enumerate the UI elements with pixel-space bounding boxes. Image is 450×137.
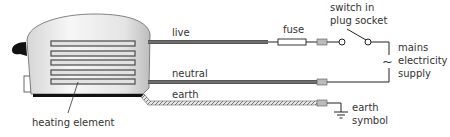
label-heating-element: heating element <box>32 117 114 128</box>
label-earth-symbol-line1: earth <box>352 102 379 113</box>
toaster <box>12 14 150 113</box>
label-mains-line2: electricity <box>398 55 448 66</box>
toaster-handle <box>12 42 27 56</box>
toaster-circuit-diagram: ~ live fuse neutral earth switch in plug… <box>0 0 450 137</box>
switch <box>339 29 371 45</box>
toaster-base <box>33 94 143 97</box>
ac-supply-icon: ~ <box>382 54 393 69</box>
label-earth-symbol-line2: symbol <box>352 115 388 126</box>
earth-connector <box>317 100 327 106</box>
label-mains-line1: mains <box>398 42 428 53</box>
label-mains-line3: supply <box>398 68 431 79</box>
label-neutral: neutral <box>172 68 208 79</box>
label-fuse: fuse <box>283 24 304 35</box>
label-switch-line2: plug socket <box>330 15 387 26</box>
label-switch-line1: switch in <box>330 2 374 13</box>
neutral-connector <box>317 79 327 85</box>
live-connector <box>317 39 327 45</box>
earth-symbol-icon <box>334 112 348 118</box>
label-earth: earth <box>172 89 199 100</box>
label-live: live <box>172 27 190 38</box>
fuse <box>278 39 306 45</box>
